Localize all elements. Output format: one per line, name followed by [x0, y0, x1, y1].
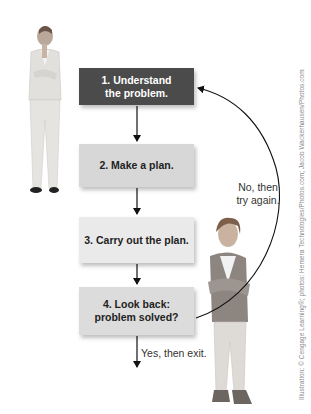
- exit-label: Yes, then exit.: [141, 347, 207, 360]
- step-1-line2: the problem.: [101, 87, 171, 100]
- step-1-line1: 1. Understand: [101, 74, 171, 87]
- step-3-carry-out-box: 3. Carry out the plan.: [79, 217, 194, 263]
- step-2-plan-box: 2. Make a plan.: [79, 144, 194, 187]
- loop-label: No, then try again.: [228, 181, 288, 207]
- loop-label-line2: try again.: [228, 194, 288, 207]
- step-1-understand-box: 1. Understand the problem.: [79, 68, 194, 105]
- step-2-label: 2. Make a plan.: [99, 159, 173, 172]
- step-4-look-back-box: 4. Look back: problem solved?: [79, 287, 194, 335]
- step-3-label: 3. Carry out the plan.: [84, 234, 188, 247]
- photo-credit: Illustration: © Cengage Learning®; photo…: [298, 69, 305, 400]
- step-4-line2: problem solved?: [94, 311, 178, 324]
- step-4-line1: 4. Look back:: [94, 298, 178, 311]
- loop-label-line1: No, then: [228, 181, 288, 194]
